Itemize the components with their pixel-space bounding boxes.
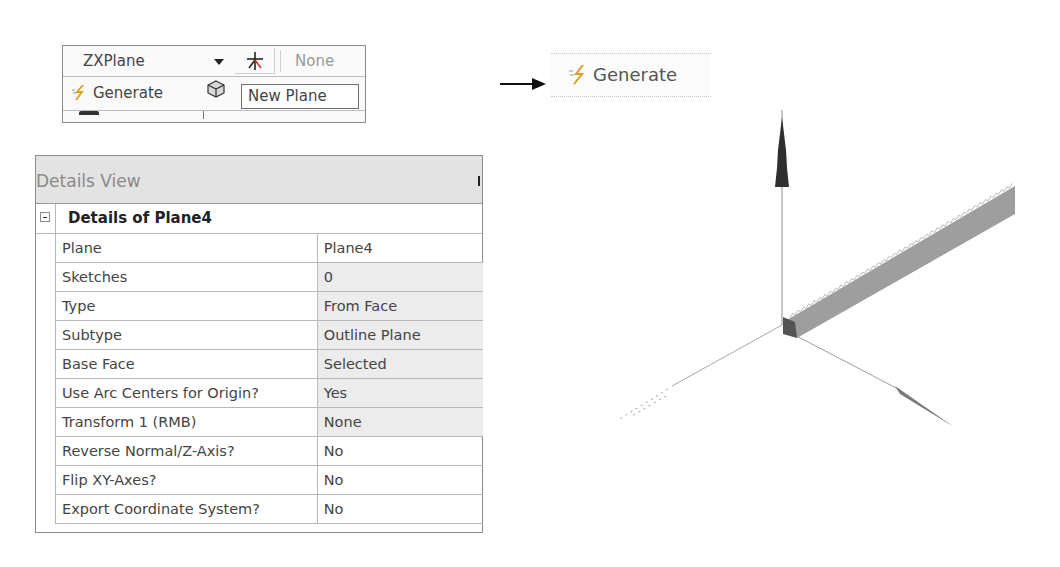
z-axis-arrow <box>787 331 954 427</box>
property-value[interactable]: Yes <box>317 379 483 408</box>
callout-arrow-icon <box>500 78 546 90</box>
property-label: Subtype <box>56 321 318 350</box>
property-label: Plane <box>56 234 318 263</box>
y-axis-arrow <box>775 110 789 325</box>
section-divider <box>55 204 56 234</box>
pin-icon[interactable] <box>478 176 480 186</box>
toolbar-separator <box>280 50 281 72</box>
generate-label: Generate <box>593 54 677 96</box>
property-value[interactable]: From Face <box>317 292 483 321</box>
property-row[interactable]: Transform 1 (RMB)None <box>56 408 484 437</box>
property-row[interactable]: TypeFrom Face <box>56 292 484 321</box>
property-row[interactable]: Flip XY-Axes?No <box>56 466 484 495</box>
property-value[interactable]: Plane4 <box>317 234 483 263</box>
property-value[interactable]: Outline Plane <box>317 321 483 350</box>
property-label: Flip XY-Axes? <box>56 466 318 495</box>
property-label: Sketches <box>56 263 318 292</box>
toolbar-row-generate: Generate New Plane <box>63 76 365 111</box>
active-sketch-field[interactable]: None <box>295 49 334 73</box>
property-row[interactable]: Base FaceSelected <box>56 350 484 379</box>
details-view-title: Details View <box>36 171 141 191</box>
toolbar-row-planes: ZXPlane None <box>63 46 365 77</box>
property-value[interactable]: None <box>317 408 483 437</box>
new-plane-tooltip: New Plane <box>241 84 359 109</box>
toolbar-row-partial <box>63 111 365 123</box>
property-value[interactable]: 0 <box>317 263 483 292</box>
plane-select-value: ZXPlane <box>83 49 145 73</box>
toolbar: ZXPlane None Generate New Pl <box>62 45 366 123</box>
property-value[interactable]: Selected <box>317 350 483 379</box>
chevron-down-icon <box>214 59 224 65</box>
partial-toolbar-icon <box>79 111 99 115</box>
generate-label: Generate <box>93 84 163 102</box>
section-title: Details of Plane4 <box>68 204 212 233</box>
property-label: Export Coordinate System? <box>56 495 318 524</box>
property-label: Reverse Normal/Z-Axis? <box>56 437 318 466</box>
toolbar-separator <box>203 111 204 119</box>
property-value[interactable]: No <box>317 466 483 495</box>
details-view-panel: Details View Details of Plane4 PlanePlan… <box>35 155 483 533</box>
x-axis-negative <box>618 325 782 420</box>
property-row[interactable]: SubtypeOutline Plane <box>56 321 484 350</box>
property-row[interactable]: Reverse Normal/Z-Axis?No <box>56 437 484 466</box>
properties-table: PlanePlane4Sketches0TypeFrom FaceSubtype… <box>55 234 483 524</box>
graphics-viewport[interactable] <box>560 100 1060 460</box>
asterisk-plane-icon <box>245 51 265 71</box>
lightning-generate-icon <box>569 65 589 85</box>
property-label: Base Face <box>56 350 318 379</box>
lightning-generate-icon <box>71 85 89 101</box>
details-view-header: Details View <box>36 156 482 204</box>
property-value[interactable]: No <box>317 495 483 524</box>
new-plane-button[interactable] <box>235 48 275 74</box>
property-row[interactable]: Sketches0 <box>56 263 484 292</box>
property-label: Transform 1 (RMB) <box>56 408 318 437</box>
property-label: Use Arc Centers for Origin? <box>56 379 318 408</box>
new-body-icon[interactable] <box>207 80 225 98</box>
details-section-header: Details of Plane4 <box>36 204 482 234</box>
property-row[interactable]: PlanePlane4 <box>56 234 484 263</box>
property-label: Type <box>56 292 318 321</box>
property-value[interactable]: No <box>317 437 483 466</box>
property-row[interactable]: Export Coordinate System?No <box>56 495 484 524</box>
collapse-icon[interactable] <box>40 212 50 222</box>
generate-button[interactable]: Generate <box>71 80 163 106</box>
rack-body[interactable] <box>783 184 1015 339</box>
property-row[interactable]: Use Arc Centers for Origin?Yes <box>56 379 484 408</box>
plane-select-dropdown[interactable]: ZXPlane <box>69 49 243 73</box>
generate-button-callout[interactable]: Generate <box>551 53 711 97</box>
